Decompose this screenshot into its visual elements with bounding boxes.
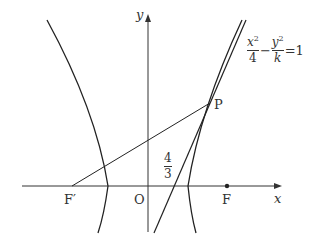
equation-term2: y2 k	[272, 36, 284, 64]
focus-right-label: F	[222, 193, 231, 206]
segment-fprime-p	[72, 103, 210, 186]
equals-one: =1	[285, 43, 304, 58]
term1-numerator: x2	[247, 36, 259, 49]
focus-f-dot	[225, 184, 229, 188]
hyperbola-right-branch	[188, 20, 242, 233]
equation-term1: x2 4	[247, 36, 259, 64]
x-axis-arrow-icon	[274, 183, 282, 189]
tangent-line	[154, 20, 246, 233]
term2-numerator: y2	[272, 36, 284, 49]
y-axis-label: y	[136, 8, 143, 21]
hyperbola-left-branch	[47, 20, 108, 233]
intercept-denominator: 3	[164, 168, 172, 181]
intercept-numerator: 4	[164, 152, 172, 165]
term1-denominator: 4	[249, 52, 257, 65]
minus-sign: −	[260, 43, 271, 58]
y-axis-arrow-icon	[145, 14, 151, 22]
hyperbola-equation: x2 4 − y2 k =1	[246, 36, 304, 64]
origin-label: O	[134, 193, 145, 206]
point-p-label: P	[214, 98, 223, 111]
intercept-fraction: 4 3	[164, 152, 172, 180]
term2-denominator: k	[274, 52, 281, 65]
focus-left-label: F′	[64, 193, 76, 206]
x-axis-label: x	[274, 192, 281, 205]
